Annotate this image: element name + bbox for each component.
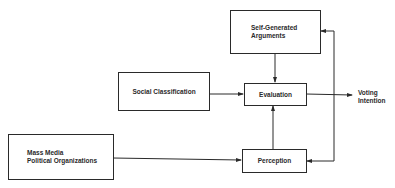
node-label-line: Self-Generated	[251, 24, 297, 32]
node-mass-media-political-organizations: Mass Media Political Organizations	[8, 134, 114, 180]
edge-evaluation-to-voting	[306, 94, 352, 95]
node-label-line: Political Organizations	[27, 157, 97, 165]
node-label-line: Arguments	[251, 32, 297, 40]
output-voting-intention: Voting Intention	[358, 89, 385, 105]
node-perception: Perception	[242, 149, 307, 173]
output-label-line: Intention	[358, 97, 385, 105]
node-social-classification: Social Classification	[118, 72, 210, 111]
node-label: Social Classification	[132, 88, 195, 96]
node-label: Evaluation	[259, 91, 292, 99]
node-self-generated-arguments: Self-Generated Arguments	[230, 10, 321, 54]
node-evaluation: Evaluation	[244, 83, 307, 106]
node-label-line: Mass Media	[27, 149, 97, 157]
node-label: Perception	[258, 157, 292, 165]
edge-media-to-perception	[113, 158, 241, 160]
output-label-line: Voting	[358, 89, 385, 97]
